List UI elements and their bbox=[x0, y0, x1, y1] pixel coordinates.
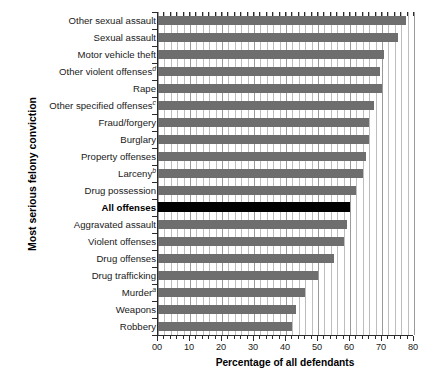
y-axis-tick bbox=[152, 182, 157, 183]
bar-row bbox=[158, 165, 414, 182]
x-axis-minor-tick bbox=[240, 336, 241, 339]
bar-row bbox=[158, 233, 414, 250]
top-axis-tick bbox=[400, 12, 401, 16]
x-axis-tick-label: 60 bbox=[334, 342, 364, 352]
x-axis-minor-tick bbox=[266, 336, 267, 339]
top-axis-tick bbox=[375, 12, 376, 16]
y-axis-tick bbox=[152, 80, 157, 81]
bar-row bbox=[158, 80, 414, 97]
y-axis-tick bbox=[152, 267, 157, 268]
category-label: All offenses bbox=[16, 203, 156, 213]
x-axis-major-tick bbox=[189, 336, 190, 341]
top-axis-tick bbox=[183, 12, 184, 16]
x-axis-major-tick bbox=[285, 336, 286, 341]
top-axis-tick bbox=[234, 12, 235, 16]
bar bbox=[158, 152, 366, 161]
top-axis-tick bbox=[176, 12, 177, 16]
x-axis-tick-label: 40 bbox=[270, 342, 300, 352]
bar bbox=[158, 118, 369, 127]
category-label: Other sexual assault bbox=[16, 16, 156, 26]
bar-row bbox=[158, 131, 414, 148]
bar-row bbox=[158, 267, 414, 284]
x-axis-minor-tick bbox=[208, 336, 209, 339]
bar bbox=[158, 169, 363, 178]
bar bbox=[158, 288, 305, 297]
top-axis-tick bbox=[215, 12, 216, 16]
x-axis-minor-tick bbox=[400, 336, 401, 339]
x-axis-minor-tick bbox=[375, 336, 376, 339]
bar-row bbox=[158, 182, 414, 199]
x-axis-minor-tick bbox=[362, 336, 363, 339]
top-axis-tick bbox=[279, 12, 280, 16]
x-axis-title: Percentage of all defendants bbox=[157, 357, 413, 368]
y-axis-tick bbox=[152, 131, 157, 132]
bar bbox=[158, 101, 374, 110]
y-axis-tick bbox=[152, 233, 157, 234]
category-label: Burglary bbox=[16, 135, 156, 145]
bar-row bbox=[158, 12, 414, 29]
x-axis-major-tick bbox=[253, 336, 254, 341]
x-axis-tick-label: 80 bbox=[398, 342, 428, 352]
x-axis-major-tick bbox=[221, 336, 222, 341]
category-label: Sexual assault bbox=[16, 33, 156, 43]
x-axis-major-tick bbox=[157, 336, 158, 341]
y-axis-tick bbox=[152, 148, 157, 149]
category-label: Fraud/forgery bbox=[16, 118, 156, 128]
top-axis-tick bbox=[343, 12, 344, 16]
category-label: Drug trafficking bbox=[16, 271, 156, 281]
top-axis-tick bbox=[317, 12, 318, 16]
y-axis-tick bbox=[152, 97, 157, 98]
gridline bbox=[414, 12, 415, 335]
top-axis-tick bbox=[413, 12, 414, 16]
bar-row bbox=[158, 114, 414, 131]
bar-row bbox=[158, 318, 414, 335]
x-axis-tick-label: 50 bbox=[302, 342, 332, 352]
top-axis-tick bbox=[381, 12, 382, 16]
bar-row bbox=[158, 29, 414, 46]
category-label: Aggravated assault bbox=[16, 220, 156, 230]
x-axis-minor-tick bbox=[170, 336, 171, 339]
y-axis-tick bbox=[152, 250, 157, 251]
y-axis-tick bbox=[152, 318, 157, 319]
x-axis-minor-tick bbox=[176, 336, 177, 339]
footnote-marker: a bbox=[152, 285, 156, 292]
top-axis-tick bbox=[195, 12, 196, 16]
y-axis-tick bbox=[152, 29, 157, 30]
bar-row bbox=[158, 97, 414, 114]
x-axis-minor-tick bbox=[279, 336, 280, 339]
x-axis-minor-tick bbox=[298, 336, 299, 339]
category-label: Murdera bbox=[16, 288, 156, 298]
top-axis-tick bbox=[355, 12, 356, 16]
top-axis-tick bbox=[387, 12, 388, 16]
x-axis-tick-label: 00 bbox=[142, 342, 172, 352]
top-axis-tick bbox=[330, 12, 331, 16]
x-axis-minor-tick bbox=[387, 336, 388, 339]
x-axis-minor-tick bbox=[368, 336, 369, 339]
bar bbox=[158, 305, 296, 314]
x-axis-minor-tick bbox=[355, 336, 356, 339]
category-label: Property offenses bbox=[16, 152, 156, 162]
top-axis-tick bbox=[291, 12, 292, 16]
top-axis-tick bbox=[247, 12, 248, 16]
top-axis-tick bbox=[157, 12, 158, 16]
top-axis-tick bbox=[362, 12, 363, 16]
top-axis-tick bbox=[208, 12, 209, 16]
x-axis-minor-tick bbox=[311, 336, 312, 339]
x-axis-minor-tick bbox=[304, 336, 305, 339]
category-label: Other violent offensesd bbox=[16, 67, 156, 77]
top-axis-tick bbox=[189, 12, 190, 16]
bar bbox=[158, 237, 344, 246]
y-axis-tick bbox=[152, 301, 157, 302]
x-axis-minor-tick bbox=[234, 336, 235, 339]
bar-row bbox=[158, 216, 414, 233]
y-axis-tick bbox=[152, 114, 157, 115]
y-axis-tick bbox=[152, 216, 157, 217]
top-axis-tick bbox=[336, 12, 337, 16]
y-axis-tick bbox=[152, 165, 157, 166]
category-label: Motor vehicle theft bbox=[16, 50, 156, 60]
top-axis-tick bbox=[272, 12, 273, 16]
bar bbox=[158, 322, 292, 331]
x-axis-tick-label: 30 bbox=[238, 342, 268, 352]
top-axis-tick bbox=[304, 12, 305, 16]
category-label: Weapons bbox=[16, 305, 156, 315]
